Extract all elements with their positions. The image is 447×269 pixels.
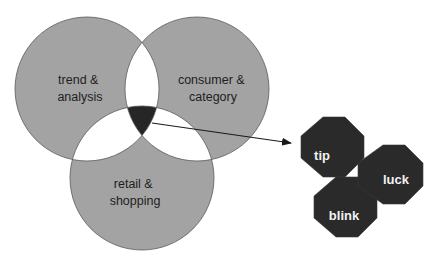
octagon-label-tip: tip bbox=[314, 148, 330, 163]
octagon-label-luck: luck bbox=[383, 172, 410, 187]
venn-diagram-figure: trend & analysis consumer & category ret… bbox=[0, 0, 447, 269]
octagon-label-blink: blink bbox=[329, 208, 360, 223]
octagon-tip bbox=[301, 117, 364, 177]
